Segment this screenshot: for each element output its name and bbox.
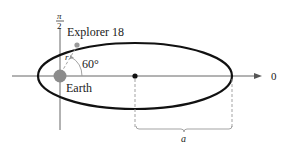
polar-axis-zero-label: 0	[271, 70, 277, 82]
orbit-diagram: 0 π 2 a r 60° Earth Explorer 18	[0, 0, 297, 147]
ellipse-center-dot	[132, 73, 137, 78]
earth-label: Earth	[66, 81, 92, 95]
semi-major-axis-label: a	[181, 133, 186, 144]
earth-icon	[54, 70, 67, 83]
angle-label: 60°	[82, 57, 99, 71]
pi-numerator: π	[57, 11, 62, 21]
satellite-label: Explorer 18	[67, 25, 124, 39]
angle-arc	[71, 57, 82, 76]
semi-major-axis-brace	[136, 126, 232, 132]
radius-label: r	[65, 52, 69, 62]
arrow-right-icon	[254, 73, 262, 79]
pi-denominator: 2	[57, 21, 62, 31]
satellite-icon	[74, 42, 79, 47]
pi-over-2-label: π 2	[56, 11, 64, 31]
